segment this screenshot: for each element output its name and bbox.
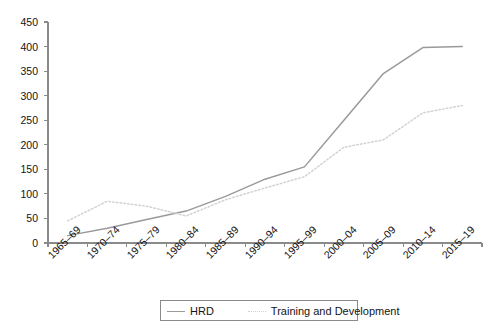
chart-series-lines <box>68 47 463 236</box>
y-axis-tick-label: 350 <box>4 66 38 77</box>
legend-label-training-and-development: Training and Development <box>268 305 400 317</box>
chart-axes <box>44 22 482 247</box>
chart-plot-area <box>0 0 499 332</box>
chart-legend: HRD Training and Development <box>160 300 358 321</box>
series-line-training-and-development <box>68 105 463 220</box>
y-axis-tick-label: 200 <box>4 140 38 151</box>
y-axis-tick-label: 300 <box>4 91 38 102</box>
y-axis-tick-label: 150 <box>4 164 38 175</box>
legend-line-dotted-icon <box>246 306 268 316</box>
series-line-hrd <box>68 47 463 236</box>
y-axis-tick-label: 50 <box>4 213 38 224</box>
legend-line-solid-icon <box>165 306 187 316</box>
y-axis-tick-label: 0 <box>4 238 38 249</box>
y-axis-tick-label: 100 <box>4 189 38 200</box>
y-axis-tick-label: 450 <box>4 17 38 28</box>
legend-label-hrd: HRD <box>187 305 214 317</box>
y-axis-tick-label: 400 <box>4 42 38 53</box>
line-chart: 050100150200250300350400450 1965–691970–… <box>0 0 499 332</box>
legend-entry-training-and-development: Training and Development <box>246 301 400 320</box>
legend-entry-hrd: HRD <box>165 301 214 320</box>
y-axis-tick-label: 250 <box>4 115 38 126</box>
